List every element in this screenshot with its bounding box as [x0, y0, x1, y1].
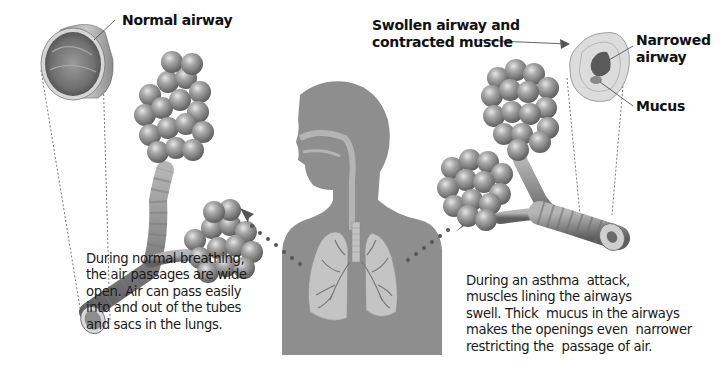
caption-line: swell. Thick mucus in the airways [466, 306, 692, 322]
asthma-diagram: Normal airway Swollen airway and contrac… [0, 0, 727, 385]
caption-line: into and out of the tubes [86, 300, 247, 316]
swollen-airway-label-line2: contracted muscle [372, 34, 520, 51]
narrowed-airway-label-line2: airway [636, 49, 711, 66]
asthmatic-alveoli-upper [481, 59, 559, 161]
human-silhouette [282, 81, 442, 355]
normal-airway-cross-section [41, 24, 113, 100]
normal-breathing-caption: During normal breathing, the air passage… [86, 251, 247, 333]
swollen-airway-label-line1: Swollen airway and [372, 17, 520, 34]
asthmatic-bronchiole [500, 160, 629, 255]
mucus-label: Mucus [636, 98, 685, 115]
caption-line: and sacs in the lungs. [86, 317, 247, 333]
caption-line: open. Air can pass easily [86, 284, 247, 300]
caption-line: During normal breathing, [86, 251, 247, 267]
swollen-airway-label: Swollen airway and contracted muscle [372, 17, 520, 51]
caption-line: the air passages are wide [86, 267, 247, 283]
swollen-airway-cross-section [570, 32, 630, 101]
narrowed-airway-label: Narrowed airway [636, 32, 711, 66]
caption-line: makes the openings even narrower [466, 322, 692, 338]
caption-line: muscles lining the airways [466, 289, 692, 305]
caption-line: During an asthma attack, [466, 273, 692, 289]
asthma-attack-caption: During an asthma attack, muscles lining … [466, 273, 692, 355]
narrowed-airway-label-line1: Narrowed [636, 32, 711, 49]
normal-alveoli-upper [134, 51, 214, 163]
asthmatic-airway-illustration [437, 32, 633, 255]
caption-line: restricting the passage of air. [466, 339, 692, 355]
normal-airway-label: Normal airway [122, 12, 232, 29]
